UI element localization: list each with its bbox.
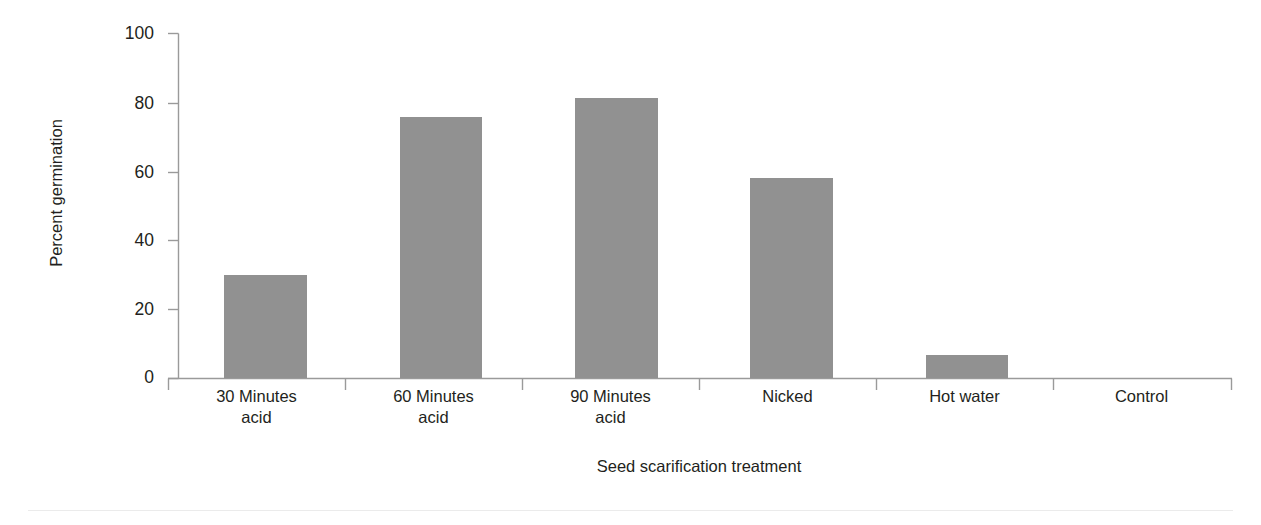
x-tick-label-2: 90 Minutes acid — [522, 386, 699, 448]
bar-hot-water[interactable] — [926, 355, 1008, 378]
x-tick-label-4: Hot water — [876, 386, 1053, 448]
bar-slot-4 — [879, 30, 1054, 378]
bar-60-minutes-acid[interactable] — [400, 117, 482, 378]
footer-divider — [28, 510, 1233, 511]
x-tick-label-3-line1: Nicked — [762, 387, 812, 405]
x-tick-label-2-line1: 90 Minutes — [570, 387, 651, 405]
x-tick-label-0-line1: 30 Minutes — [216, 387, 297, 405]
x-tick-label-4-line1: Hot water — [929, 387, 1000, 405]
bar-90-minutes-acid[interactable] — [575, 98, 657, 378]
bar-slot-0 — [178, 30, 353, 378]
x-axis-tick-labels: 30 Minutes acid 60 Minutes acid 90 Minut… — [168, 386, 1230, 448]
x-tick-label-1: 60 Minutes acid — [345, 386, 522, 448]
bar-chart-figure: Percent germination 100 80 60 40 20 0 — [0, 0, 1261, 525]
x-tick-label-0: 30 Minutes acid — [168, 386, 345, 448]
bar-slot-1 — [353, 30, 528, 378]
bar-nicked[interactable] — [750, 178, 832, 378]
x-tick-label-1-line2: acid — [345, 407, 522, 428]
x-tick-label-3: Nicked — [699, 386, 876, 448]
x-tick-label-1-line1: 60 Minutes — [393, 387, 474, 405]
bar-slot-3 — [704, 30, 879, 378]
x-tick-label-5: Control — [1053, 386, 1230, 448]
plot-area — [178, 30, 1230, 378]
x-tick-label-5-line1: Control — [1115, 387, 1168, 405]
x-axis-title: Seed scarification treatment — [168, 457, 1230, 476]
bar-series — [178, 30, 1230, 378]
bar-slot-5 — [1055, 30, 1230, 378]
x-tick-label-2-line2: acid — [522, 407, 699, 428]
bar-slot-2 — [529, 30, 704, 378]
x-tick-label-0-line2: acid — [168, 407, 345, 428]
bar-30-minutes-acid[interactable] — [224, 275, 306, 378]
